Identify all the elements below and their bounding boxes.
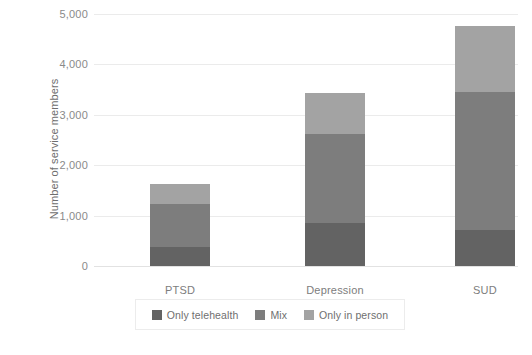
x-tick-label: Depression [275,284,395,296]
bar-segment[interactable] [305,134,365,222]
y-tick-label: 5,000 [59,8,88,20]
legend-item[interactable]: Mix [255,309,287,321]
x-tick-label: PTSD [120,284,240,296]
bar-segment[interactable] [150,184,210,204]
y-axis-title: Number of service members [48,29,60,269]
legend-item[interactable]: Only in person [304,309,388,321]
stacked-bar-chart: Number of service members 01,0002,0003,0… [0,0,532,355]
y-tick-label: 4,000 [59,58,88,70]
gridline [94,266,518,267]
legend-label: Mix [270,309,287,321]
bar-depression[interactable] [305,93,365,266]
x-tick-label: SUD [425,284,532,296]
gridline [94,14,518,15]
legend-swatch-only-in-person [304,310,314,320]
y-tick-label: 3,000 [59,109,88,121]
bar-segment[interactable] [455,26,515,92]
legend-swatch-mix [255,310,265,320]
legend-item[interactable]: Only telehealth [152,309,239,321]
legend-swatch-only-telehealth [152,310,162,320]
y-tick-label: 2,000 [59,159,88,171]
legend-label: Only telehealth [167,309,239,321]
bar-segment[interactable] [150,204,210,247]
bar-segment[interactable] [455,230,515,266]
bar-segment[interactable] [305,93,365,134]
bar-segment[interactable] [455,92,515,230]
legend-label: Only in person [319,309,388,321]
plot-area: 01,0002,0003,0004,0005,000PTSDDepression… [94,14,518,266]
bar-ptsd[interactable] [150,184,210,266]
bar-segment[interactable] [305,223,365,266]
chart-legend: Only telehealth Mix Only in person [135,299,405,330]
bar-segment[interactable] [150,247,210,266]
y-tick-label: 1,000 [59,210,88,222]
bar-sud[interactable] [455,26,515,266]
y-tick-label: 0 [82,260,88,272]
